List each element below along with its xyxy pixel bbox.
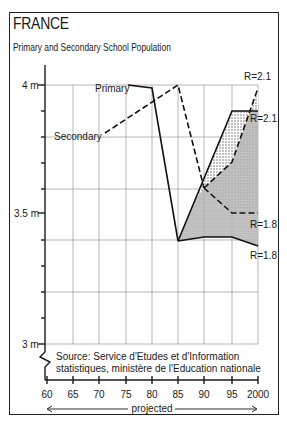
- x-label-65: 65: [67, 389, 79, 400]
- y-label-4m: 4 m: [22, 80, 39, 91]
- r21-label-top: R=2.1: [244, 71, 271, 82]
- primary-line: [128, 85, 178, 241]
- source-line-2: statistiques, ministère de l'Education n…: [56, 363, 261, 374]
- x-label-90: 90: [198, 389, 210, 400]
- primary-label: Primary: [95, 83, 129, 94]
- x-labels: 60 65 70 75 80 85 90 95 2000: [41, 389, 269, 400]
- projected-label: projected: [131, 403, 172, 414]
- y-label-3-5m: 3.5 m: [14, 208, 39, 219]
- y-axis: [38, 65, 45, 352]
- axis-break: [40, 352, 50, 380]
- x-label-2000: 2000: [247, 389, 270, 400]
- x-label-80: 80: [146, 389, 158, 400]
- secondary-label: Secondary: [54, 131, 102, 142]
- x-label-75: 75: [120, 389, 132, 400]
- x-axis: [45, 376, 258, 384]
- y-label-3m: 3 m: [22, 339, 39, 350]
- secondary-line: [105, 85, 204, 188]
- r21-label-second: R=2.1: [250, 113, 277, 124]
- x-label-95: 95: [226, 389, 238, 400]
- x-label-70: 70: [93, 389, 105, 400]
- x-label-60: 60: [41, 389, 53, 400]
- r18-label-upper: R=1.8: [250, 219, 277, 230]
- source-line-1: Source: Service d'Etudes et d'Informatio…: [56, 351, 239, 362]
- r18-label-lower: R=1.8: [250, 250, 277, 261]
- chart-plot: 4 m 3.5 m 3 m 60 65 70 75 80 85 90 95 20…: [0, 0, 287, 423]
- x-label-85: 85: [172, 389, 184, 400]
